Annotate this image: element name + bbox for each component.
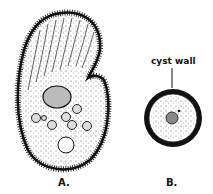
panel-b-label: B.: [166, 177, 177, 188]
diagram-canvas: [0, 0, 213, 194]
panel-a-label: A.: [58, 177, 70, 188]
contractile-vacuole: [58, 137, 74, 153]
cyst-b: [144, 68, 202, 147]
macronucleus: [43, 86, 71, 108]
cyst-dot: [178, 110, 181, 113]
cyst-wall-label: cyst wall: [151, 56, 196, 66]
cyst-nucleus: [166, 112, 178, 124]
organism-a: [18, 13, 109, 170]
